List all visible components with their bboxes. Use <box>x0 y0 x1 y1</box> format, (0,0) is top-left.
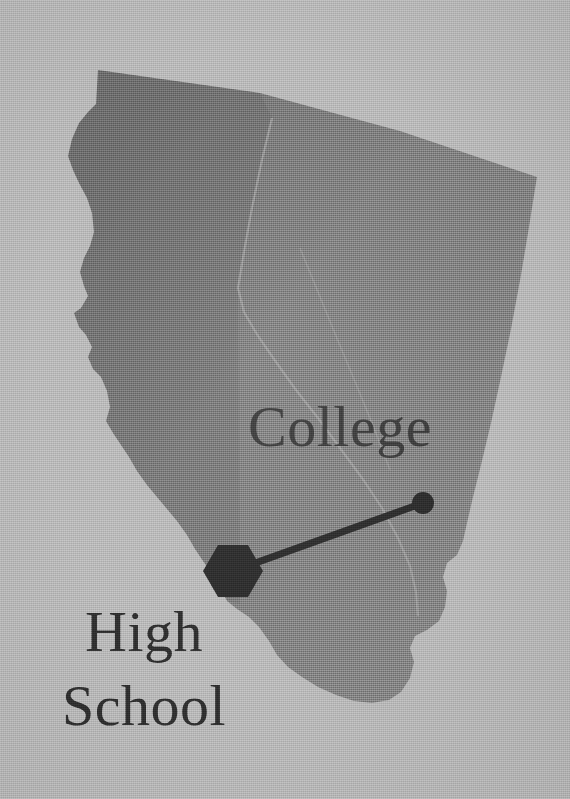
map-canvas: College High School <box>0 0 570 799</box>
high-school-label-line1: High <box>44 603 244 661</box>
college-label: College <box>248 398 432 456</box>
high-school-label-line2: School <box>44 677 244 735</box>
high-school-label: High School <box>44 603 244 735</box>
college-marker[interactable] <box>412 492 434 514</box>
